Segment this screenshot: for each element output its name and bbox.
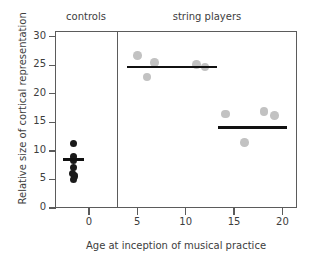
y-axis-tick — [49, 122, 56, 123]
y-axis-tick — [49, 36, 56, 37]
x-axis-tick — [185, 208, 186, 215]
data-point — [240, 138, 249, 147]
y-axis-tick — [49, 179, 56, 180]
x-axis-title: Age at inception of musical practice — [55, 240, 297, 251]
y-axis-tick — [49, 207, 56, 208]
x-axis-tick — [233, 208, 234, 215]
mean-line — [127, 66, 217, 69]
x-axis-tick-label: 20 — [269, 216, 295, 227]
x-axis-tick-label: 15 — [221, 216, 247, 227]
x-axis-tick — [137, 208, 138, 215]
x-axis-tick — [282, 208, 283, 215]
mean-line — [218, 126, 288, 129]
mean-line — [63, 158, 84, 161]
plot-area — [55, 31, 297, 208]
group-divider-line — [117, 31, 118, 208]
x-axis-tick-label: 5 — [124, 216, 150, 227]
x-axis-tick — [88, 208, 89, 215]
y-axis-tick — [49, 93, 56, 94]
data-point — [260, 107, 269, 116]
data-point — [133, 51, 142, 60]
y-axis-tick — [49, 150, 56, 151]
y-axis-tick — [49, 65, 56, 66]
group-caption-controls: controls — [55, 11, 117, 22]
x-axis-tick-label: 10 — [173, 216, 199, 227]
data-point — [270, 111, 279, 120]
y-axis-title: Relative size of cortical representation — [17, 15, 28, 205]
group-caption-string-players: string players — [117, 11, 297, 22]
scatter-plot-figure: controls string players 051015202530 051… — [0, 0, 315, 272]
data-point — [221, 110, 230, 119]
x-axis-tick-label: 0 — [76, 216, 102, 227]
